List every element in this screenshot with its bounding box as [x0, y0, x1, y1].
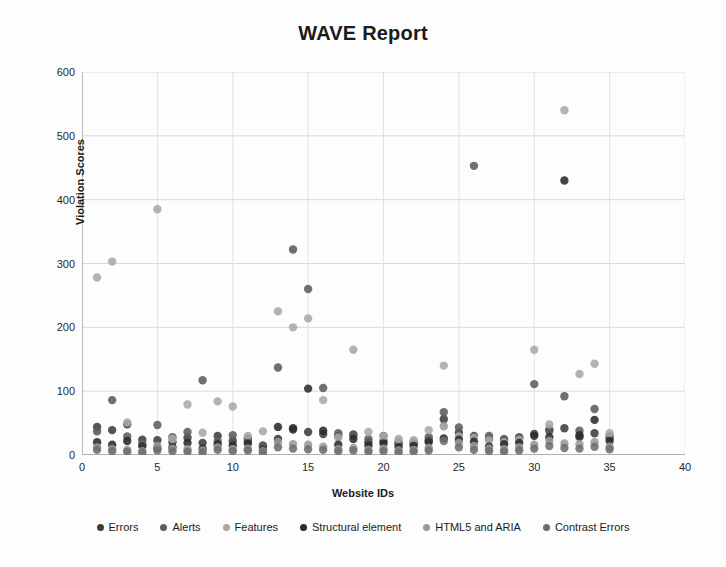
data-point: [425, 426, 433, 434]
legend-label: Structural element: [312, 521, 401, 533]
data-point: [590, 405, 598, 413]
data-point: [319, 384, 327, 392]
x-axis-label: Website IDs: [0, 487, 726, 499]
data-point: [244, 446, 252, 454]
y-axis-tick-label: 100: [57, 385, 75, 397]
x-axis-tick-label: 20: [377, 461, 389, 473]
scatter-plot-canvas: [82, 72, 685, 455]
data-point: [229, 402, 237, 410]
wave-report-chart: WAVE Report Violation Scores 01002003004…: [0, 0, 726, 567]
data-point: [198, 428, 206, 436]
series-structural-element: [93, 176, 614, 454]
data-point: [93, 446, 101, 454]
data-point: [530, 444, 538, 452]
y-axis-tick-label: 0: [69, 449, 75, 461]
data-point: [289, 323, 297, 331]
legend-marker-icon: [223, 524, 230, 531]
data-point: [108, 257, 116, 265]
x-axis-tick-label: 30: [528, 461, 540, 473]
data-point: [590, 416, 598, 424]
data-point: [515, 446, 523, 454]
series-features: [93, 106, 614, 450]
data-point: [244, 432, 252, 440]
data-point: [213, 397, 221, 405]
data-point: [334, 447, 342, 455]
legend-marker-icon: [423, 524, 430, 531]
data-point: [349, 446, 357, 454]
data-point: [304, 384, 312, 392]
data-point: [93, 273, 101, 281]
data-point: [304, 285, 312, 293]
y-axis-label: Violation Scores: [74, 117, 86, 247]
data-point: [379, 447, 387, 455]
legend-item-features[interactable]: Features: [223, 521, 278, 533]
data-point: [274, 443, 282, 451]
data-point: [545, 442, 553, 450]
legend-item-alerts[interactable]: Alerts: [160, 521, 200, 533]
legend-marker-icon: [300, 524, 307, 531]
data-point: [560, 176, 568, 184]
data-point: [153, 446, 161, 454]
data-point: [153, 421, 161, 429]
data-point: [485, 447, 493, 455]
legend-marker-icon: [160, 524, 167, 531]
data-point: [304, 428, 312, 436]
y-axis-tick-label: 400: [57, 194, 75, 206]
data-point: [349, 435, 357, 443]
data-point: [153, 205, 161, 213]
data-point: [605, 445, 613, 453]
legend-marker-icon: [97, 524, 104, 531]
data-point: [123, 437, 131, 445]
x-axis-tick-label: 15: [302, 461, 314, 473]
data-point: [530, 380, 538, 388]
data-point: [440, 361, 448, 369]
data-point: [289, 245, 297, 253]
legend-item-contrast-errors[interactable]: Contrast Errors: [543, 521, 630, 533]
data-point: [349, 345, 357, 353]
data-point: [560, 392, 568, 400]
legend-marker-icon: [543, 524, 550, 531]
data-point: [425, 446, 433, 454]
data-point: [183, 400, 191, 408]
data-point: [440, 437, 448, 445]
x-axis-tick-label: 0: [79, 461, 85, 473]
data-point: [229, 447, 237, 455]
x-axis-tick-label: 10: [227, 461, 239, 473]
data-point: [545, 420, 553, 428]
x-axis-tick-label: 5: [154, 461, 160, 473]
data-point: [304, 314, 312, 322]
data-point: [183, 428, 191, 436]
data-point: [575, 444, 583, 452]
legend-label: Contrast Errors: [555, 521, 630, 533]
data-point: [605, 429, 613, 437]
data-point: [274, 423, 282, 431]
data-point: [319, 427, 327, 435]
y-axis-tick-label: 300: [57, 258, 75, 270]
legend-item-errors[interactable]: Errors: [97, 521, 139, 533]
y-axis-tick-label: 600: [57, 66, 75, 78]
data-point: [289, 424, 297, 432]
data-point: [93, 427, 101, 435]
x-axis-tick-label: 40: [679, 461, 691, 473]
legend-label: Errors: [109, 521, 139, 533]
data-point: [575, 370, 583, 378]
data-point: [304, 445, 312, 453]
data-point: [530, 432, 538, 440]
data-point: [319, 446, 327, 454]
legend-label: Features: [235, 521, 278, 533]
data-point: [575, 431, 583, 439]
data-point: [319, 396, 327, 404]
x-axis-tick-label: 25: [453, 461, 465, 473]
data-point: [455, 443, 463, 451]
x-axis-tick-label: 35: [604, 461, 616, 473]
data-point: [394, 435, 402, 443]
data-point: [168, 435, 176, 443]
data-point: [364, 428, 372, 436]
data-point: [560, 424, 568, 432]
series-alerts: [93, 162, 614, 450]
data-point: [470, 162, 478, 170]
legend-item-html5-and-aria[interactable]: HTML5 and ARIA: [423, 521, 521, 533]
data-point: [274, 363, 282, 371]
legend-item-structural-element[interactable]: Structural element: [300, 521, 401, 533]
data-point: [108, 396, 116, 404]
